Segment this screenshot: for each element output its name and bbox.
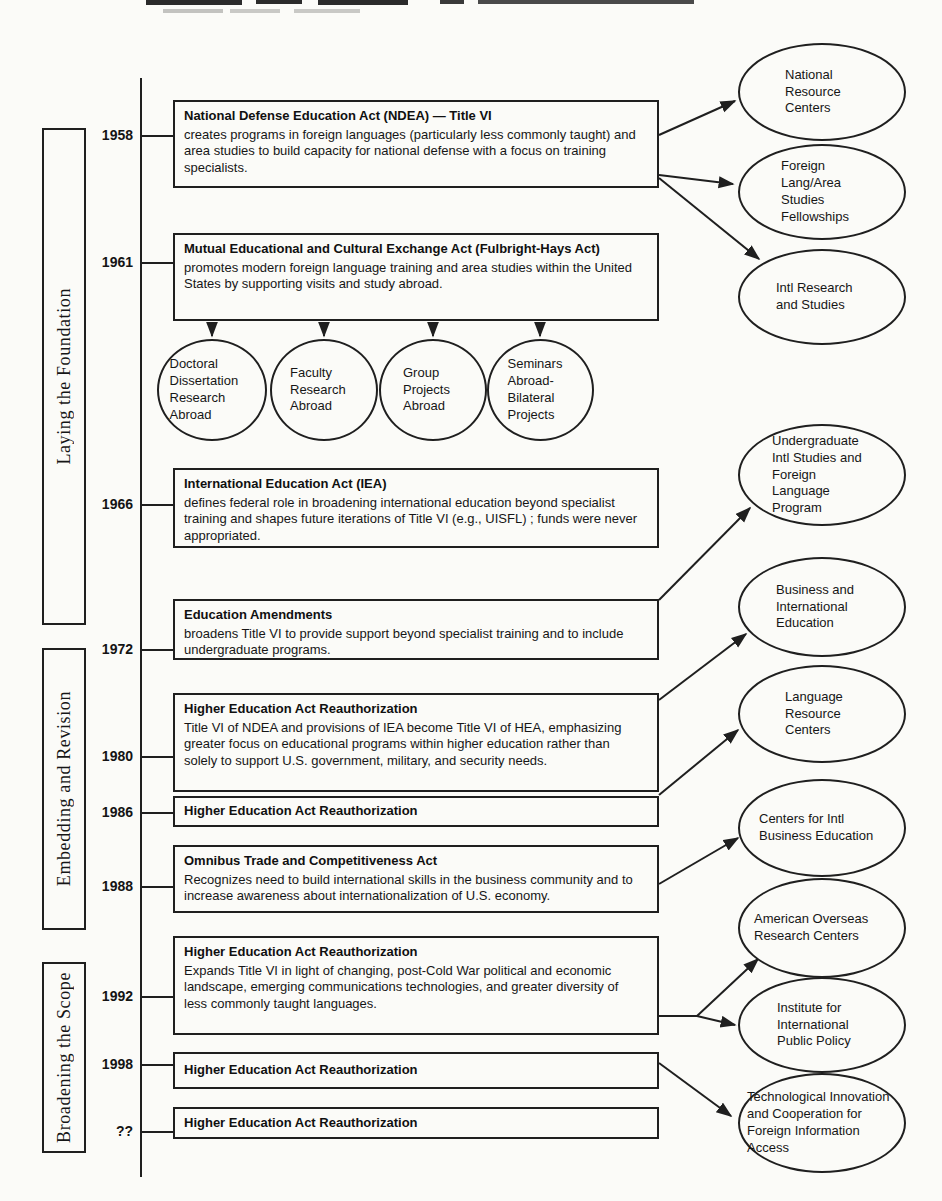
era-broadening-the-scope: Broadening the Scope: [42, 962, 86, 1153]
era-laying-the-foundation: Laying the Foundation: [42, 128, 86, 625]
act-description: Recognizes need to build international s…: [184, 872, 645, 905]
year-1966: 1966: [84, 496, 133, 512]
scan-artifact: [318, 0, 408, 5]
scan-artifact: [294, 9, 360, 13]
act-description: promotes modern foreign language trainin…: [184, 260, 645, 293]
act-title: International Education Act (IEA): [184, 476, 645, 493]
act-title: Higher Education Act Reauthorization: [184, 701, 645, 718]
era-label: Laying the Foundation: [54, 288, 75, 465]
program-label: Institute for International Public Polic…: [777, 1000, 867, 1051]
act-box-hea-1980: Higher Education Act Reauthorization Tit…: [173, 693, 659, 792]
arrow-omnibus-to-cibe: [659, 838, 738, 884]
program-label: Seminars Abroad- Bilateral Projects: [508, 356, 574, 424]
program-label: Intl Research and Studies: [776, 280, 868, 314]
arrow-hea1980-to-bie: [659, 634, 746, 700]
year-1972: 1972: [84, 641, 133, 657]
act-box-education-amendments: Education Amendments broadens Title VI t…: [173, 599, 659, 660]
program-oval-foreign-lang-area-studies-fellowships: Foreign Lang/Area Studies Fellowships: [738, 144, 906, 240]
program-oval-intl-research-and-studies: Intl Research and Studies: [738, 249, 906, 345]
act-box-hea-1986: Higher Education Act Reauthorization: [173, 796, 659, 827]
program-oval-centers-for-intl-business-education: Centers for Intl Business Education: [738, 779, 906, 877]
program-oval-language-resource-centers: Language Resource Centers: [738, 665, 906, 763]
program-label: Doctoral Dissertation Research Abroad: [170, 356, 255, 424]
program-label: Foreign Lang/Area Studies Fellowships: [781, 158, 863, 226]
program-label: Group Projects Abroad: [403, 365, 463, 416]
program-label: Technological Innovation and Cooperation…: [747, 1089, 897, 1157]
act-description: Expands Title VI in light of changing, p…: [184, 963, 645, 1013]
era-label: Broadening the Scope: [54, 972, 75, 1143]
scan-artifact: [230, 9, 280, 13]
arrow-edamend-to-uisfl: [659, 508, 750, 600]
title-vi-timeline-diagram: Laying the Foundation Embedding and Revi…: [0, 0, 942, 1201]
act-box-hea-1992: Higher Education Act Reauthorization Exp…: [173, 936, 659, 1035]
year-unknown: ??: [84, 1123, 133, 1139]
program-circle-group-projects-abroad: Group Projects Abroad: [379, 339, 487, 441]
act-title: Omnibus Trade and Competitiveness Act: [184, 853, 645, 870]
program-label: Language Resource Centers: [785, 689, 859, 740]
act-title: Education Amendments: [184, 607, 645, 624]
program-oval-american-overseas-research-centers: American Overseas Research Centers: [738, 878, 906, 978]
arrow-ndea-to-nrc: [659, 101, 735, 135]
year-1992: 1992: [84, 988, 133, 1004]
program-label: American Overseas Research Centers: [754, 911, 890, 945]
act-description: creates programs in foreign languages (p…: [184, 127, 645, 177]
era-embedding-and-revision: Embedding and Revision: [42, 648, 86, 930]
act-box-hea-1998: Higher Education Act Reauthorization: [173, 1052, 659, 1089]
program-circle-faculty-research-abroad: Faculty Research Abroad: [270, 339, 378, 441]
program-label: Business and International Education: [776, 582, 868, 633]
act-description: defines federal role in broadening inter…: [184, 495, 645, 545]
program-oval-institute-for-international-public-policy: Institute for International Public Polic…: [738, 977, 906, 1073]
scan-artifact: [146, 0, 242, 5]
program-label: National Resource Centers: [785, 67, 859, 118]
act-box-hea-future: Higher Education Act Reauthorization: [173, 1107, 659, 1139]
scan-artifact: [440, 0, 464, 4]
program-circle-seminars-abroad-bilateral-projects: Seminars Abroad- Bilateral Projects: [487, 339, 594, 441]
era-label: Embedding and Revision: [54, 691, 75, 886]
arrow-hea1992-to-iipp: [697, 1016, 735, 1025]
act-description: broadens Title VI to provide support bey…: [184, 626, 645, 659]
program-label: Centers for Intl Business Education: [759, 811, 885, 845]
year-1958: 1958: [84, 127, 133, 143]
year-1961: 1961: [84, 254, 133, 270]
program-label: Faculty Research Abroad: [290, 365, 358, 416]
arrow-ndea-to-flas: [659, 175, 733, 184]
act-title: National Defense Education Act (NDEA) — …: [184, 108, 645, 125]
act-box-fulbright-hays: Mutual Educational and Cultural Exchange…: [173, 233, 659, 321]
act-title: Mutual Educational and Cultural Exchange…: [184, 241, 645, 258]
act-title: Higher Education Act Reauthorization: [184, 1115, 645, 1132]
program-oval-undergraduate-intl-studies-foreign-language: Undergraduate Intl Studies and Foreign L…: [738, 424, 906, 526]
scan-artifact: [478, 0, 694, 4]
program-oval-national-resource-centers: National Resource Centers: [738, 43, 906, 141]
scan-artifact: [163, 9, 223, 13]
act-title: Higher Education Act Reauthorization: [184, 944, 645, 961]
year-1986: 1986: [84, 804, 133, 820]
year-1980: 1980: [84, 748, 133, 764]
act-title: Higher Education Act Reauthorization: [184, 803, 645, 820]
program-oval-ticfia: Technological Innovation and Cooperation…: [738, 1073, 906, 1173]
act-description: Title VI of NDEA and provisions of IEA b…: [184, 720, 645, 770]
year-1988: 1988: [84, 878, 133, 894]
arrow-hea1998-to-ticfia: [659, 1063, 731, 1116]
act-box-ndea: National Defense Education Act (NDEA) — …: [173, 100, 659, 188]
program-label: Undergraduate Intl Studies and Foreign L…: [772, 433, 872, 517]
program-circle-doctoral-dissertation-research-abroad: Doctoral Dissertation Research Abroad: [157, 339, 267, 441]
act-title: Higher Education Act Reauthorization: [184, 1062, 645, 1079]
act-box-omnibus-trade: Omnibus Trade and Competitiveness Act Re…: [173, 845, 659, 913]
year-1998: 1998: [84, 1056, 133, 1072]
scan-artifact: [256, 0, 302, 4]
act-box-iea: International Education Act (IEA) define…: [173, 468, 659, 548]
arrow-hea1986-to-lrc: [659, 730, 738, 795]
program-oval-business-and-international-education: Business and International Education: [738, 557, 906, 657]
